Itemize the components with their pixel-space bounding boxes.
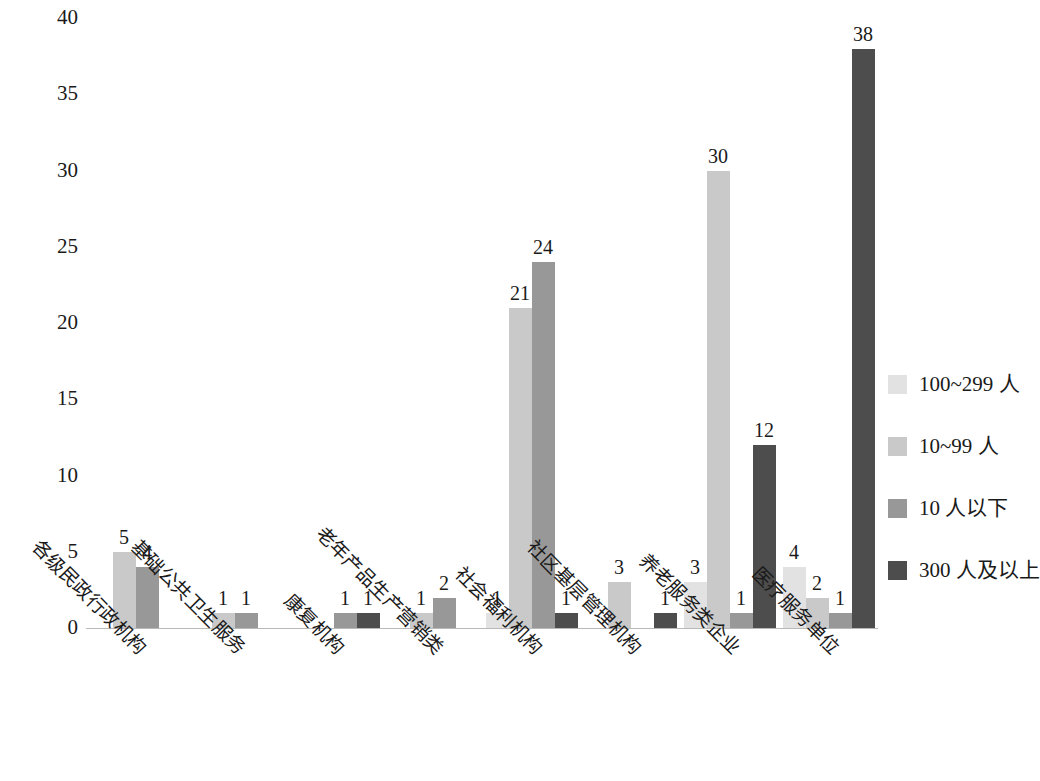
legend-swatch <box>888 499 907 518</box>
bar-slot <box>90 18 113 628</box>
bar-slot: 1 <box>235 18 258 628</box>
bar-value-label: 1 <box>835 588 845 608</box>
legend-item[interactable]: 100~299 人 <box>888 372 1030 396</box>
legend-swatch <box>888 437 907 456</box>
bar-value-label: 38 <box>853 24 873 44</box>
bar[interactable]: 24 <box>532 262 555 628</box>
legend: 100~299 人10~99 人10 人以下300 人及以上 <box>888 372 1030 620</box>
bar-value-label: 1 <box>660 588 670 608</box>
bar-value-label: 21 <box>510 283 530 303</box>
bar[interactable]: 1 <box>730 613 753 628</box>
bar-slot <box>387 18 410 628</box>
bar-group: 330112 <box>680 18 779 628</box>
bar-value-label: 4 <box>142 542 152 562</box>
y-axis-tick-label: 30 <box>34 160 78 181</box>
y-axis-tick-label: 40 <box>34 7 78 28</box>
bar[interactable]: 1 <box>410 613 433 628</box>
legend-label: 10~99 人 <box>919 436 999 457</box>
bar-slot <box>159 18 182 628</box>
y-axis-tick-label: 0 <box>34 617 78 638</box>
legend-item[interactable]: 10~99 人 <box>888 434 1030 458</box>
bar-value-label: 1 <box>492 588 502 608</box>
bar[interactable]: 30 <box>707 171 730 629</box>
bar[interactable]: 1 <box>654 613 677 628</box>
bar[interactable]: 2 <box>806 598 829 629</box>
y-axis-tick-label: 20 <box>34 312 78 333</box>
bar[interactable]: 1 <box>829 613 852 628</box>
bar[interactable]: 1 <box>235 613 258 628</box>
bar-group: 11 <box>284 18 383 628</box>
bar-slot: 1 <box>410 18 433 628</box>
bar-group: 121241 <box>482 18 581 628</box>
bar-slot: 21 <box>509 18 532 628</box>
bar[interactable]: 5 <box>113 552 136 628</box>
legend-swatch <box>888 561 907 580</box>
bar-slot <box>585 18 608 628</box>
y-axis-tick-label: 10 <box>34 465 78 486</box>
bar-slot: 2 <box>433 18 456 628</box>
bar[interactable]: 3 <box>684 582 707 628</box>
bar-value-label: 3 <box>690 557 700 577</box>
bar-slot <box>456 18 479 628</box>
bar[interactable]: 1 <box>486 613 509 628</box>
bar-slot: 1 <box>357 18 380 628</box>
legend-item[interactable]: 10 人以下 <box>888 496 1030 520</box>
bar-value-label: 3 <box>614 557 624 577</box>
bar-slot: 4 <box>136 18 159 628</box>
bar-slot: 1 <box>730 18 753 628</box>
bar-slot: 38 <box>852 18 875 628</box>
legend-label: 10 人以下 <box>919 498 1008 519</box>
bar-value-label: 30 <box>708 146 728 166</box>
bar-slot: 24 <box>532 18 555 628</box>
x-axis-line <box>86 628 878 629</box>
bar-slot: 4 <box>783 18 806 628</box>
bar[interactable]: 4 <box>136 567 159 628</box>
bar-value-label: 2 <box>439 573 449 593</box>
bar-slot: 1 <box>829 18 852 628</box>
bar-value-label: 5 <box>119 527 129 547</box>
bar-group: 11 <box>185 18 284 628</box>
bar[interactable]: 21 <box>509 308 532 628</box>
bar-slot <box>631 18 654 628</box>
bar-slot: 1 <box>486 18 509 628</box>
bar-value-label: 1 <box>218 588 228 608</box>
bar-group: 31 <box>581 18 680 628</box>
bar-value-label: 1 <box>241 588 251 608</box>
bar-value-label: 1 <box>561 588 571 608</box>
bar[interactable]: 38 <box>852 49 875 629</box>
bar[interactable]: 4 <box>783 567 806 628</box>
bar[interactable]: 1 <box>555 613 578 628</box>
bar-group: 12 <box>383 18 482 628</box>
legend-label: 100~299 人 <box>919 374 1020 395</box>
plot-area: 541111121212413133011242138 <box>86 18 878 628</box>
bar[interactable]: 3 <box>608 582 631 628</box>
bar[interactable]: 1 <box>357 613 380 628</box>
legend-swatch <box>888 375 907 394</box>
bar-slot: 5 <box>113 18 136 628</box>
bar-group: 54 <box>86 18 185 628</box>
bar-slot <box>288 18 311 628</box>
bar-slot: 3 <box>608 18 631 628</box>
bar-slot: 1 <box>212 18 235 628</box>
bar-slot: 30 <box>707 18 730 628</box>
y-axis: 4035302520151050 <box>0 0 78 781</box>
bar-value-label: 24 <box>533 237 553 257</box>
bar-slot: 1 <box>555 18 578 628</box>
bar[interactable]: 12 <box>753 445 776 628</box>
y-axis-tick-label: 25 <box>34 236 78 257</box>
bar-slot: 2 <box>806 18 829 628</box>
y-axis-tick-label: 15 <box>34 388 78 409</box>
bar-slot: 1 <box>334 18 357 628</box>
bar[interactable]: 2 <box>433 598 456 629</box>
bar[interactable]: 1 <box>334 613 357 628</box>
bar-slot: 12 <box>753 18 776 628</box>
bar[interactable]: 1 <box>212 613 235 628</box>
bar-value-label: 2 <box>812 573 822 593</box>
legend-item[interactable]: 300 人及以上 <box>888 558 1030 582</box>
bar-value-label: 1 <box>363 588 373 608</box>
bar-value-label: 1 <box>340 588 350 608</box>
legend-label: 300 人及以上 <box>919 560 1040 581</box>
bar-slot: 3 <box>684 18 707 628</box>
bar-group: 42138 <box>779 18 878 628</box>
